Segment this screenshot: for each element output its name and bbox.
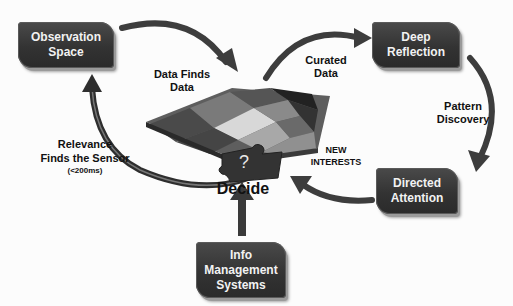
question-mark-icon: ? (232, 152, 256, 173)
arrow-attention-to-decide (290, 176, 372, 201)
label-relevance: Relevance Finds the Sensor (30, 137, 140, 165)
node-observation-space: Observation Space (18, 22, 114, 68)
arrow-observation-to-data (122, 23, 238, 72)
diagram-canvas: Observation Space Deep Reflection Direct… (0, 0, 513, 306)
node-info-management-systems: Info Management Systems (196, 242, 286, 298)
node-observation-space-label: Observation Space (31, 30, 101, 60)
label-data-finds-data: Data Finds Data (142, 68, 222, 94)
node-directed-attention-label: Directed Attention (391, 176, 444, 206)
node-deep-reflection-label: Deep Reflection (387, 30, 445, 60)
decide-label: Decide (208, 180, 278, 198)
label-new-interests: NEW INTERESTS (296, 144, 376, 168)
label-relevance-timing: (<200ms) (50, 166, 120, 176)
node-info-management-systems-label: Info Management Systems (204, 248, 277, 293)
label-pattern-discovery: Pattern Discovery (428, 100, 498, 126)
node-deep-reflection: Deep Reflection (372, 22, 460, 68)
node-directed-attention: Directed Attention (376, 168, 458, 214)
label-curated-data: Curated Data (296, 54, 356, 80)
